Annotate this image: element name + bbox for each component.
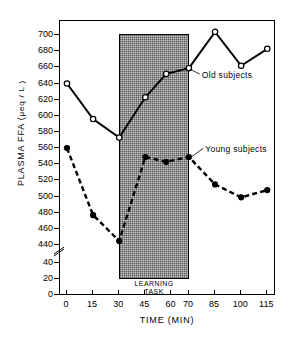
series-layer (60, 21, 274, 294)
data-point (186, 154, 191, 159)
data-point (164, 71, 169, 76)
data-point (143, 154, 148, 159)
data-point (212, 29, 217, 34)
x-tick (214, 290, 215, 295)
series-old-subjects (64, 29, 270, 140)
data-point (164, 159, 169, 164)
data-point (90, 116, 95, 121)
y-tick-label: 620 (25, 94, 53, 104)
y-tick (54, 212, 59, 213)
x-tick-label: 15 (87, 299, 97, 309)
y-tick-label: 440 (25, 239, 53, 249)
y-tick-label: 680 (25, 45, 53, 55)
x-axis-title: TIME (MIN) (59, 315, 275, 325)
y-tick-label: 600 (25, 110, 53, 120)
x-tick (92, 290, 93, 295)
y-tick-label: 20 (25, 273, 53, 283)
y-tick (54, 262, 59, 263)
x-tick-label: 70 (183, 299, 193, 309)
y-tick-label: 540 (25, 158, 53, 168)
plot-area: LEARNING TASK (59, 20, 275, 295)
y-tick-label: 560 (25, 142, 53, 152)
data-point (117, 238, 122, 243)
y-tick (54, 294, 59, 295)
data-point (238, 63, 243, 68)
data-point (239, 195, 244, 200)
y-tick (54, 228, 59, 229)
y-tick (54, 196, 59, 197)
y-tick (54, 83, 59, 84)
data-point (265, 46, 270, 51)
series-annotation-young-subjects: Young subjects (205, 144, 267, 154)
y-tick (54, 278, 59, 279)
x-tick-label: 100 (233, 299, 248, 309)
data-point (64, 81, 69, 86)
x-tick-label: 45 (139, 299, 149, 309)
x-tick-label: 115 (259, 299, 273, 309)
y-tick-label: 0 (25, 289, 53, 299)
x-tick (118, 290, 119, 295)
x-tick (266, 290, 267, 295)
x-tick (240, 290, 241, 295)
y-tick (54, 147, 59, 148)
y-tick (54, 163, 59, 164)
series-young-subjects (64, 146, 269, 244)
chart-figure: PLASMA FFA (μeq / L ) LEARNING TASK 4404… (0, 0, 289, 344)
y-tick (54, 115, 59, 116)
y-tick (54, 34, 59, 35)
y-tick (54, 179, 59, 180)
data-point (91, 213, 96, 218)
y-tick-label: 460 (25, 223, 53, 233)
y-tick (54, 131, 59, 132)
x-tick-label: 0 (63, 299, 68, 309)
x-tick-label: 85 (209, 299, 219, 309)
axis-break-icon (53, 243, 65, 259)
data-point (64, 146, 69, 151)
x-tick-label: 30 (113, 299, 123, 309)
y-tick (54, 99, 59, 100)
y-tick-label: 500 (25, 191, 53, 201)
x-tick (170, 290, 171, 295)
data-point (213, 182, 218, 187)
x-tick (188, 290, 189, 295)
y-tick-label: 700 (25, 29, 53, 39)
x-tick (66, 290, 67, 295)
y-tick-label: 40 (25, 257, 53, 267)
y-tick-label: 580 (25, 126, 53, 136)
y-tick (54, 66, 59, 67)
y-tick (54, 50, 59, 51)
y-tick-label: 480 (25, 207, 53, 217)
y-tick-label: 640 (25, 78, 53, 88)
data-point (143, 95, 148, 100)
x-tick-label: 60 (165, 299, 175, 309)
data-point (186, 65, 191, 70)
y-tick-label: 660 (25, 61, 53, 71)
series-line (67, 32, 267, 138)
y-tick-label: 520 (25, 174, 53, 184)
x-tick (144, 290, 145, 295)
series-annotation-old-subjects: Old subjects (202, 70, 252, 80)
data-point (117, 135, 122, 140)
data-point (265, 188, 270, 193)
